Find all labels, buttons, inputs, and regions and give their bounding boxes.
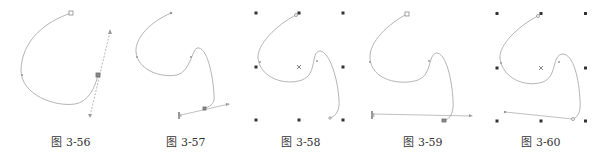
handle-top-left[interactable] xyxy=(496,12,499,15)
handle-middle-right[interactable] xyxy=(584,67,587,70)
mid-node[interactable] xyxy=(428,60,430,62)
mid-node[interactable] xyxy=(316,60,318,62)
handle-top-center[interactable] xyxy=(540,12,543,15)
handle-bottom-center[interactable] xyxy=(298,119,301,122)
mid-node[interactable] xyxy=(190,56,192,58)
figure-3-59-drawing xyxy=(369,12,473,122)
caption-fig-3-59: 图 3-59 xyxy=(403,133,442,149)
figure-3-60-drawing xyxy=(496,12,588,123)
handle-bottom-right[interactable] xyxy=(584,120,587,123)
caption-fig-3-56: 图 3-56 xyxy=(51,133,90,149)
caption-fig-3-60: 图 3-60 xyxy=(521,133,560,149)
handle-bottom-left[interactable] xyxy=(255,119,258,122)
figure-3-58-drawing xyxy=(255,12,345,122)
mid-node[interactable] xyxy=(259,61,261,63)
start-node[interactable] xyxy=(537,15,540,18)
selected-node[interactable] xyxy=(442,119,446,122)
start-node[interactable] xyxy=(295,14,298,17)
mid-node[interactable] xyxy=(500,62,502,64)
handle-middle-left[interactable] xyxy=(255,66,258,69)
tangent-line xyxy=(373,114,471,116)
control-handle-bottom[interactable] xyxy=(88,114,92,118)
control-handle-right[interactable] xyxy=(469,114,473,117)
tangent-line xyxy=(505,112,573,119)
handle-top-right[interactable] xyxy=(342,12,345,15)
handle-top-right[interactable] xyxy=(584,12,587,15)
mid-node[interactable] xyxy=(136,56,138,58)
handle-middle-left[interactable] xyxy=(496,67,499,70)
start-node[interactable] xyxy=(170,12,172,14)
handle-top-left[interactable] xyxy=(255,12,258,15)
control-handle-top[interactable] xyxy=(108,29,112,34)
start-node[interactable] xyxy=(69,11,73,15)
drag-cursor-icon xyxy=(371,111,375,119)
bezier-curve xyxy=(136,13,214,108)
handle-bottom-right[interactable] xyxy=(342,119,345,122)
drag-cursor-icon xyxy=(178,112,182,119)
center-x-icon xyxy=(539,66,543,70)
figure-3-57-drawing xyxy=(136,12,230,119)
handle-middle-right[interactable] xyxy=(342,66,345,69)
end-node[interactable] xyxy=(572,118,575,121)
bezier-curve xyxy=(21,13,98,104)
start-node[interactable] xyxy=(405,12,409,16)
handle-bottom-center[interactable] xyxy=(540,120,543,123)
mid-node[interactable] xyxy=(369,61,371,63)
end-node[interactable] xyxy=(329,117,331,119)
selected-node[interactable] xyxy=(96,73,100,77)
center-x-icon xyxy=(297,65,301,69)
handle-bottom-left[interactable] xyxy=(496,120,499,123)
handle-top-center[interactable] xyxy=(298,12,301,15)
bezier-curve xyxy=(370,14,453,121)
selected-node[interactable] xyxy=(203,107,206,110)
handle-end[interactable] xyxy=(504,111,506,113)
mid-node[interactable] xyxy=(21,74,23,76)
caption-fig-3-57: 图 3-57 xyxy=(166,133,205,149)
caption-fig-3-58: 图 3-58 xyxy=(281,133,320,149)
mid-node[interactable] xyxy=(558,61,560,63)
control-handle-right[interactable] xyxy=(226,103,230,106)
figure-3-56-drawing xyxy=(21,11,112,118)
